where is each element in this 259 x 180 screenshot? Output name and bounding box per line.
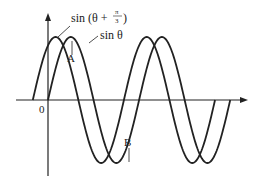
curve-label-shifted: sin (θ + — [71, 11, 108, 25]
label-leader-sin — [89, 36, 98, 43]
curve-label-shifted-frac-den: 3 — [115, 17, 119, 25]
y-axis-arrow-icon — [45, 13, 51, 21]
curve-label-shifted-close: ) — [123, 11, 127, 25]
diagram-canvas: sin (θ + π 3 ) sin θ 0 A B — [0, 0, 259, 180]
sine-diagram: sin (θ + π 3 ) sin θ 0 A B — [0, 0, 259, 180]
point-b-label: B — [124, 136, 131, 148]
label-leader-shifted — [58, 26, 70, 37]
x-axis-arrow-icon — [240, 97, 248, 103]
point-a-label: A — [67, 52, 75, 64]
origin-label: 0 — [39, 103, 45, 115]
curve-label-sin: sin θ — [100, 28, 123, 42]
curve-label-shifted-frac-num: π — [115, 8, 119, 16]
